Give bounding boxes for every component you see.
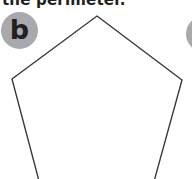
pentagon-shape — [0, 0, 192, 179]
pentagon-outline — [12, 16, 182, 179]
